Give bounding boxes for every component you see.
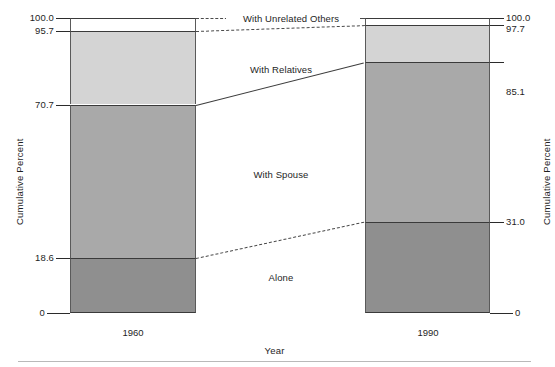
x-category-label-1960: 1960 <box>73 327 193 338</box>
bar-segment-1960-spouse <box>70 105 196 259</box>
left-tick-label-95-7: 95.7 <box>0 26 54 36</box>
series-label-spouse: With Spouse <box>216 169 346 180</box>
connector-100-right <box>360 18 365 19</box>
bar-1960 <box>70 18 196 313</box>
connector-unrelated-others-boundary <box>196 25 365 32</box>
right-tick-label-85-1: 85.1 <box>506 87 548 97</box>
left-axis-title: Cumulative Percent <box>14 139 25 226</box>
bar-segment-1960-unrelated-others <box>70 18 196 31</box>
right-tick-label-97-7: 97.7 <box>506 24 548 34</box>
bar-1990 <box>365 18 490 313</box>
bar-segment-1990-spouse <box>365 62 490 222</box>
x-axis-title: Year <box>0 345 549 356</box>
footer-divider <box>18 361 531 362</box>
series-label-relatives: With Relatives <box>216 64 346 75</box>
right-tick-label-100: 100.0 <box>506 13 548 23</box>
right-tick-31-0 <box>490 222 504 223</box>
x-category-label-1990: 1990 <box>368 327 488 338</box>
bar-segment-1960-alone <box>70 258 196 313</box>
right-tick-85-1 <box>490 62 504 63</box>
connector-spouse-boundary <box>196 222 364 259</box>
right-axis-title: Cumulative Percent <box>541 139 552 226</box>
left-tick-label-18-6: 18.6 <box>0 253 54 263</box>
left-tick-label-100: 100.0 <box>0 13 54 23</box>
bar-segment-1960-relatives <box>70 31 196 105</box>
left-tick-0 <box>47 313 70 314</box>
left-tick-95-7 <box>56 31 70 32</box>
left-tick-100 <box>56 18 70 19</box>
left-tick-70-7 <box>56 105 70 106</box>
bar-segment-1990-alone <box>365 222 490 314</box>
bar-segment-1990-relatives <box>365 25 490 62</box>
left-tick-18-6 <box>56 258 70 259</box>
bar-segment-1990-unrelated-others <box>365 18 490 25</box>
series-label-alone: Alone <box>216 272 346 283</box>
left-tick-label-70-7: 70.7 <box>0 100 54 110</box>
right-tick-100 <box>490 18 504 19</box>
right-tick-0 <box>490 313 513 314</box>
series-label-unrelated-others: With Unrelated Others <box>226 13 356 24</box>
right-tick-label-0: 0 <box>515 308 555 318</box>
left-tick-label-0: 0 <box>0 308 45 318</box>
right-tick-97-7 <box>490 25 504 26</box>
